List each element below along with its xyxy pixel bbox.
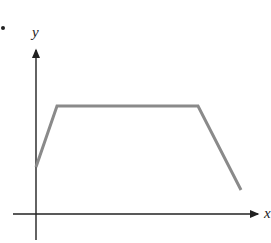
piecewise-curve: [36, 106, 241, 190]
graph-canvas: [0, 0, 271, 243]
y-axis-label: y: [32, 24, 39, 41]
x-axis-label: x: [264, 205, 271, 222]
